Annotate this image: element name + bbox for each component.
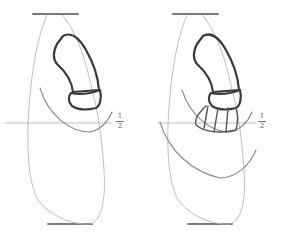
fraction-denominator: 2: [260, 122, 264, 130]
half-mark-left: 1 2: [116, 113, 124, 130]
pleat-line: [226, 108, 228, 132]
upper-shape: [194, 35, 239, 92]
fraction-numerator: 1: [118, 112, 122, 120]
fraction-numerator: 1: [260, 112, 264, 120]
sketch-canvas: 1 2 1 2: [0, 0, 285, 250]
sketch-drawing: [0, 0, 285, 250]
half-mark-right: 1 2: [258, 113, 266, 130]
upper-shape: [54, 35, 99, 92]
fraction-denominator: 2: [118, 122, 122, 130]
right-panel: [158, 14, 256, 224]
left-panel: [5, 14, 112, 224]
outer-contour: [28, 15, 105, 224]
pleat-line: [214, 108, 218, 132]
